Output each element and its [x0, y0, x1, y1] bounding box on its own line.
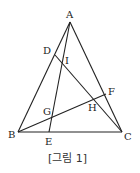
label-i: I [65, 55, 69, 66]
label-d: D [43, 45, 51, 56]
segment-ae [49, 22, 70, 132]
triangle-figure: A B C D E F G H I [그림 1] [0, 0, 140, 173]
segment-bf [18, 94, 106, 132]
label-e: E [45, 136, 52, 147]
point-labels: A B C D E F G H I [8, 9, 132, 147]
label-a: A [65, 9, 74, 20]
label-b: B [8, 129, 15, 140]
label-h: H [88, 102, 97, 113]
label-f: F [108, 86, 115, 97]
label-c: C [124, 131, 132, 142]
label-g: G [43, 106, 51, 117]
figure-caption: [그림 1] [48, 152, 87, 165]
segments [18, 22, 122, 132]
segment-ac [70, 22, 122, 132]
